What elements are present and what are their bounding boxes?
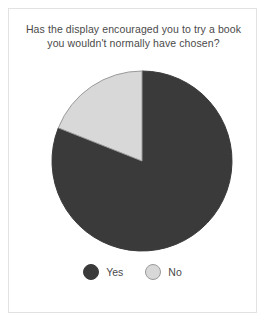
legend-label-no: No xyxy=(168,267,181,278)
pie-chart-area xyxy=(9,55,256,255)
legend-swatch-no xyxy=(145,264,161,280)
legend-swatch-yes xyxy=(83,264,99,280)
chart-legend: Yes No xyxy=(9,264,256,280)
pie-chart-svg xyxy=(9,55,256,255)
pie-slice-group xyxy=(52,71,232,251)
chart-title: Has the display encouraged you to try a … xyxy=(19,22,248,50)
chart-title-line-1: Has the display encouraged you to try a … xyxy=(19,22,248,36)
chart-card: Has the display encouraged you to try a … xyxy=(8,8,257,313)
legend-item-yes[interactable]: Yes xyxy=(83,264,123,280)
legend-item-no[interactable]: No xyxy=(145,264,181,280)
chart-title-line-2: you wouldn't normally have chosen? xyxy=(19,36,248,50)
legend-label-yes: Yes xyxy=(106,267,123,278)
